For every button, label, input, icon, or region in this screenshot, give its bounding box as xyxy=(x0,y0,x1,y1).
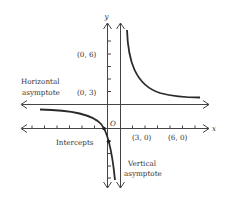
vertical-asymptote-label-line2: asymptote xyxy=(124,169,162,178)
point-label-0-6: (0, 6) xyxy=(77,50,97,59)
horizontal-asymptote-label-line2: asymptote xyxy=(22,88,60,97)
rational-function-graph: y x O (0, 6) (0, 3) (3, 0) (6, 0) Horizo… xyxy=(0,0,233,199)
curve-upper-right-branch xyxy=(127,30,200,98)
y-axis-ticks xyxy=(108,41,112,178)
horizontal-asymptote-label-line1: Horizontal xyxy=(21,77,60,86)
point-label-6-0: (6, 0) xyxy=(168,133,188,142)
y-intercept-dot xyxy=(107,140,111,144)
y-axis-label: y xyxy=(104,12,110,21)
vertical-asymptote-label-line1: Vertical xyxy=(127,159,157,168)
intercepts-label: Intercepts xyxy=(56,138,94,147)
x-axis-label: x xyxy=(212,124,216,133)
point-label-0-3: (0, 3) xyxy=(77,88,97,97)
x-intercept-dot xyxy=(102,127,106,131)
origin-label: O xyxy=(110,119,116,128)
point-label-3-0: (3, 0) xyxy=(132,133,152,142)
